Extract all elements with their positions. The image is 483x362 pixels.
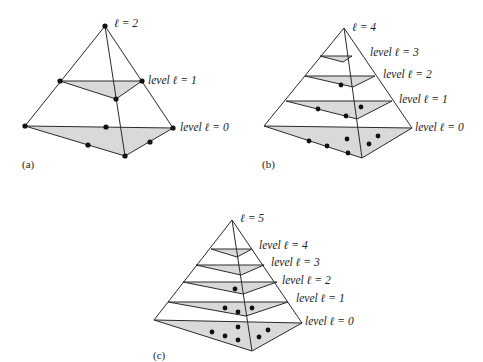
level-label: level ℓ = 3 bbox=[370, 46, 419, 58]
node bbox=[316, 107, 321, 112]
level-label: level ℓ = 2 bbox=[383, 68, 432, 80]
level-4-triangle bbox=[211, 249, 252, 257]
node bbox=[22, 123, 27, 128]
pyramid-figure: ℓ = 2 level ℓ = 1 level ℓ = 0 (a) ℓ = 4 … bbox=[0, 0, 483, 362]
node bbox=[223, 306, 228, 311]
level-label: level ℓ = 3 bbox=[271, 256, 320, 268]
node bbox=[345, 137, 350, 142]
pyramid-a: ℓ = 2 level ℓ = 1 level ℓ = 0 (a) bbox=[22, 17, 229, 171]
node bbox=[359, 105, 364, 110]
node bbox=[339, 83, 344, 88]
node bbox=[250, 306, 255, 311]
level-label: level ℓ = 0 bbox=[415, 121, 464, 133]
node bbox=[147, 139, 152, 144]
node bbox=[376, 134, 381, 139]
level-3-triangle bbox=[196, 265, 264, 275]
level-0-triangle bbox=[154, 320, 302, 351]
node bbox=[346, 151, 351, 156]
panel-caption: (c) bbox=[153, 349, 166, 362]
apex-label: ℓ = 4 bbox=[352, 21, 376, 33]
level-3-triangle bbox=[320, 56, 352, 62]
node bbox=[367, 142, 372, 147]
node bbox=[236, 310, 241, 315]
node bbox=[233, 287, 238, 292]
node bbox=[223, 334, 228, 339]
pyramid-c: ℓ = 5 level ℓ = 4 level ℓ = 3 level ℓ = … bbox=[153, 212, 354, 362]
level-2-triangle bbox=[183, 282, 277, 294]
node bbox=[85, 142, 90, 147]
pyramid-b: ℓ = 4 level ℓ = 3 level ℓ = 2 level ℓ = … bbox=[262, 21, 464, 171]
apex-node bbox=[102, 23, 107, 28]
level-label: level ℓ = 0 bbox=[305, 315, 354, 327]
node bbox=[139, 78, 144, 83]
panel-caption: (a) bbox=[22, 158, 35, 171]
apex-label: ℓ = 5 bbox=[240, 212, 264, 224]
node bbox=[307, 139, 312, 144]
level-label: level ℓ = 2 bbox=[282, 274, 331, 286]
node bbox=[266, 328, 271, 333]
level-0-triangle bbox=[264, 126, 412, 158]
node bbox=[344, 114, 349, 119]
level-label: level ℓ = 1 bbox=[148, 74, 197, 86]
node bbox=[325, 144, 330, 149]
level-label: level ℓ = 1 bbox=[399, 93, 448, 105]
node bbox=[113, 96, 118, 101]
level-label: level ℓ = 1 bbox=[296, 292, 345, 304]
node bbox=[57, 78, 62, 83]
level-1-triangle bbox=[286, 101, 392, 119]
level-1-triangle bbox=[168, 302, 288, 316]
panel-caption: (b) bbox=[262, 158, 275, 171]
node bbox=[122, 153, 127, 158]
apex-label: ℓ = 2 bbox=[114, 17, 138, 29]
level-label: level ℓ = 4 bbox=[259, 239, 308, 251]
node bbox=[236, 325, 241, 330]
node bbox=[236, 338, 241, 343]
node bbox=[257, 335, 262, 340]
node bbox=[170, 125, 175, 130]
node bbox=[210, 330, 215, 335]
node bbox=[103, 124, 108, 129]
level-1-triangle bbox=[60, 81, 142, 99]
level-label: level ℓ = 0 bbox=[180, 121, 229, 133]
